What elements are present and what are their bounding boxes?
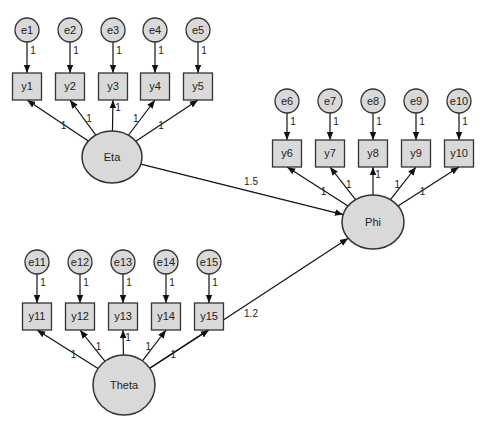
- error-label: e8: [367, 95, 379, 107]
- indicator-label: y3: [107, 80, 119, 92]
- indicator-label: y2: [64, 80, 76, 92]
- loading-weight-label: 1: [115, 102, 121, 113]
- diagram-svg: 11e1y111e2y211e3y311e4y411e5y511e6y611e7…: [0, 0, 488, 422]
- indicator-label: y11: [29, 310, 46, 322]
- error-label: e1: [21, 24, 33, 36]
- loading-weight-label: 1: [321, 186, 327, 197]
- error-label: e11: [28, 256, 46, 268]
- loading-weight-label: 1: [346, 179, 352, 190]
- loading-weight-label: 1: [394, 179, 400, 190]
- error-label: e6: [281, 95, 293, 107]
- error-label: e13: [114, 256, 132, 268]
- loading-path-y2: [70, 100, 96, 135]
- sem-diagram: 11e1y111e2y211e3y311e4y411e5y511e6y611e7…: [0, 0, 488, 422]
- error-weight-label: 1: [83, 277, 89, 288]
- loading-path-y6: [287, 167, 348, 206]
- error-weight-label: 1: [158, 45, 164, 56]
- loading-weight-label: 1: [171, 349, 177, 360]
- indicator-label: y13: [114, 310, 132, 322]
- indicator-label: y1: [21, 80, 33, 92]
- latent-label: Phi: [365, 216, 381, 228]
- error-label: e9: [410, 95, 422, 107]
- structural-weight-label: 1.2: [244, 308, 258, 319]
- loading-path-y1: [27, 100, 88, 141]
- indicator-label: y8: [367, 147, 379, 159]
- error-weight-label: 1: [376, 116, 382, 127]
- error-weight-label: 1: [212, 277, 218, 288]
- loading-weight-label: 1: [145, 341, 151, 352]
- error-weight-label: 1: [290, 116, 296, 127]
- indicator-label: y4: [149, 80, 161, 92]
- loading-weight-label: 1: [158, 120, 164, 131]
- error-weight-label: 1: [333, 116, 339, 127]
- indicator-label: y10: [450, 147, 468, 159]
- error-label: e2: [64, 24, 76, 36]
- loading-path-y10: [398, 167, 459, 206]
- error-weight-label: 1: [201, 45, 207, 56]
- loading-path-y11: [37, 330, 98, 369]
- indicator-label: y7: [324, 147, 336, 159]
- error-label: e14: [157, 256, 175, 268]
- error-weight-label: 1: [126, 277, 132, 288]
- loading-weight-label: 1: [71, 349, 77, 360]
- indicator-label: y6: [281, 147, 293, 159]
- indicator-label: y15: [200, 310, 218, 322]
- error-label: e10: [450, 95, 468, 107]
- error-weight-label: 1: [30, 45, 36, 56]
- error-weight-label: 1: [40, 277, 46, 288]
- error-weight-label: 1: [462, 116, 468, 127]
- structural-path-eta-phi: [141, 164, 343, 214]
- indicator-label: y12: [71, 310, 89, 322]
- indicator-label: y5: [192, 80, 204, 92]
- indicator-label: y14: [157, 310, 175, 322]
- error-weight-label: 1: [419, 116, 425, 127]
- latent-label: Theta: [110, 379, 139, 391]
- error-label: e12: [71, 256, 89, 268]
- error-weight-label: 1: [169, 277, 175, 288]
- loading-weight-label: 1: [61, 120, 67, 131]
- loading-weight-label: 1: [133, 113, 139, 124]
- loading-weight-label: 1: [420, 186, 426, 197]
- loading-weight-label: 1: [96, 341, 102, 352]
- loading-path-y5: [136, 100, 198, 141]
- error-label: e15: [200, 256, 218, 268]
- error-label: e5: [192, 24, 204, 36]
- structural-weight-label: 1.5: [244, 176, 258, 187]
- error-label: e7: [324, 95, 336, 107]
- latent-label: Eta: [104, 151, 121, 163]
- loading-path-y3: [112, 100, 113, 131]
- error-weight-label: 1: [73, 45, 79, 56]
- error-label: e4: [149, 24, 161, 36]
- loading-weight-label: 1: [86, 113, 92, 124]
- loading-weight-label: 1: [125, 332, 131, 343]
- error-weight-label: 1: [116, 45, 122, 56]
- error-label: e3: [107, 24, 119, 36]
- indicator-label: y9: [410, 147, 422, 159]
- loading-path-y7: [330, 167, 356, 200]
- loading-weight-label: 1: [375, 169, 381, 180]
